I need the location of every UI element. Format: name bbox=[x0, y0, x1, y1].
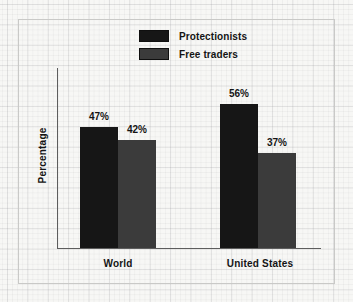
bar-world-free-traders[interactable]: 42% bbox=[118, 140, 156, 248]
bar-group-united-states: 56% 37% bbox=[220, 68, 296, 248]
bar-value-world-protectionists: 47% bbox=[89, 111, 109, 122]
legend-swatch-free-traders-icon bbox=[139, 48, 169, 60]
bar-value-united-states-free-traders: 37% bbox=[267, 137, 287, 148]
bar-united-states-protectionists[interactable]: 56% bbox=[220, 104, 258, 248]
category-label-world: World bbox=[80, 258, 156, 269]
bar-united-states-free-traders[interactable]: 37% bbox=[258, 153, 296, 248]
bar-group-world: 47% 42% bbox=[80, 68, 156, 248]
category-label-united-states: United States bbox=[210, 258, 310, 269]
bar-world-protectionists[interactable]: 47% bbox=[80, 127, 118, 248]
y-axis-title: Percentage bbox=[37, 111, 48, 201]
legend-item-protectionists: Protectionists bbox=[139, 27, 289, 45]
x-axis-line bbox=[57, 248, 321, 249]
legend-swatch-protectionists-icon bbox=[139, 30, 169, 42]
plot-area: 47% 42% 56% 37% bbox=[57, 68, 321, 248]
bar-value-united-states-protectionists: 56% bbox=[229, 88, 249, 99]
bar-value-world-free-traders: 42% bbox=[127, 124, 147, 135]
legend-item-free-traders: Free traders bbox=[139, 45, 289, 63]
chart-legend: Protectionists Free traders bbox=[139, 27, 289, 63]
legend-label-free-traders: Free traders bbox=[179, 49, 238, 60]
legend-label-protectionists: Protectionists bbox=[179, 31, 247, 42]
bar-chart-figure: Protectionists Free traders Percentage 4… bbox=[0, 0, 353, 302]
